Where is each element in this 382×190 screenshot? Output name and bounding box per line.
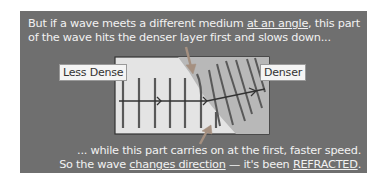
caption-line-3: ... while this part carries on at the fi… — [77, 144, 361, 158]
label-denser: Denser — [260, 64, 306, 81]
caption-line-4: So the wave changes direction — it's bee… — [59, 158, 361, 172]
emphasis-changes-direction: changes direction — [129, 158, 225, 171]
label-less-dense: Less Dense — [59, 64, 127, 81]
caption-text: . — [358, 158, 361, 171]
emphasis-refracted: REFRACTED — [293, 158, 358, 171]
explanation-panel: But if a wave meets a different medium a… — [20, 11, 367, 173]
caption-text: — it's been — [226, 158, 293, 171]
caption-text: So the wave — [59, 158, 129, 171]
